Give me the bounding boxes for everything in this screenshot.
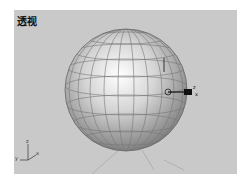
svg-text:y: y: [15, 155, 18, 162]
ground-grid: [92, 150, 184, 174]
axis-tripod-icon: z y x: [15, 138, 39, 162]
perspective-viewport[interactable]: 透视: [14, 10, 237, 174]
svg-text:x: x: [195, 91, 198, 97]
svg-text:z: z: [193, 84, 196, 90]
sphere-object[interactable]: [65, 29, 187, 151]
svg-text:x: x: [36, 150, 39, 156]
svg-text:z: z: [26, 138, 29, 144]
scene-canvas: z x z y x: [14, 10, 237, 174]
